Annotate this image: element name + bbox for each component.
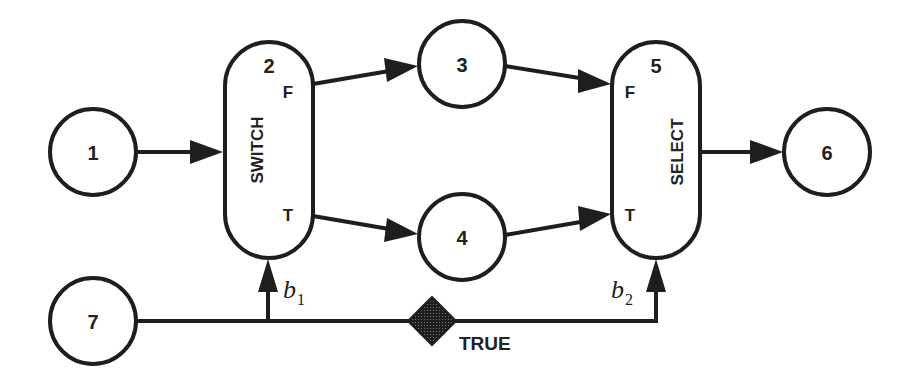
arrowhead-icon bbox=[646, 259, 666, 292]
node-2-switch: 2 F T SWITCH bbox=[225, 42, 313, 258]
b2-subscript: 2 bbox=[625, 291, 633, 308]
control-edge-7 bbox=[136, 259, 666, 321]
arrowhead-icon bbox=[578, 206, 611, 231]
arrowhead-icon bbox=[384, 218, 418, 242]
dataflow-diagram: 1 2 F T SWITCH 3 4 bbox=[0, 0, 914, 378]
switch-port-t: T bbox=[283, 206, 294, 225]
b1-subscript: 1 bbox=[297, 291, 305, 308]
edge-4-to-5 bbox=[505, 206, 611, 235]
select-operator-label: SELECT bbox=[668, 118, 687, 186]
arrowhead-icon bbox=[190, 140, 223, 164]
switch-operator-label: SWITCH bbox=[248, 116, 267, 183]
node-1: 1 bbox=[50, 109, 136, 195]
arrowhead-icon bbox=[578, 69, 611, 93]
token-label: TRUE bbox=[459, 333, 511, 354]
arrowhead-icon bbox=[384, 58, 418, 82]
node-4: 4 bbox=[419, 194, 505, 280]
node-4-label: 4 bbox=[456, 227, 468, 249]
node-1-label: 1 bbox=[87, 142, 98, 164]
arrowhead-icon bbox=[258, 259, 278, 292]
node-2-label: 2 bbox=[263, 55, 274, 77]
b2-base: b bbox=[611, 275, 624, 304]
node-6: 6 bbox=[784, 109, 870, 195]
control-label-b2: b2 bbox=[611, 275, 633, 308]
edge-1-to-2 bbox=[136, 140, 223, 164]
control-label-b1: b1 bbox=[283, 275, 305, 308]
node-5-select: 5 F T SELECT bbox=[612, 42, 700, 258]
node-7: 7 bbox=[50, 278, 136, 364]
edge-5-to-6 bbox=[700, 140, 783, 164]
node-7-label: 7 bbox=[87, 311, 98, 333]
arrowhead-icon bbox=[750, 140, 783, 164]
b1-base: b bbox=[283, 275, 296, 304]
select-port-f: F bbox=[625, 83, 635, 102]
diamond-token-icon bbox=[408, 297, 456, 345]
edge-3-to-5 bbox=[505, 66, 611, 93]
node-5-label: 5 bbox=[650, 55, 661, 77]
node-6-label: 6 bbox=[821, 142, 832, 164]
edge-2-to-3 bbox=[313, 58, 418, 84]
edge-2-to-4 bbox=[313, 216, 418, 242]
switch-port-f: F bbox=[283, 83, 293, 102]
node-3-label: 3 bbox=[456, 54, 467, 76]
initial-token: TRUE bbox=[408, 297, 511, 354]
select-port-t: T bbox=[625, 206, 636, 225]
node-3: 3 bbox=[419, 21, 505, 107]
